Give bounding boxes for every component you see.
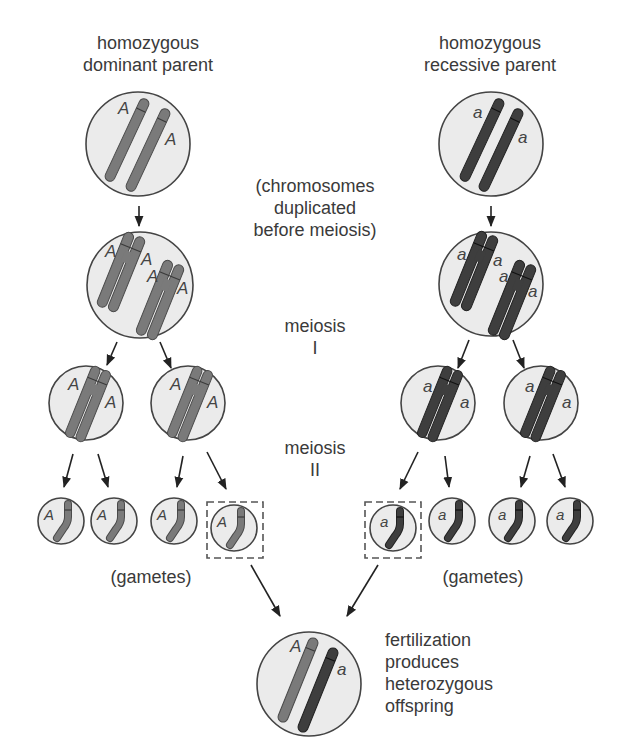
allele-label: a: [556, 506, 564, 523]
allele-label: A: [96, 506, 107, 523]
dup-dominant-cell: A A A A: [87, 231, 193, 341]
allele-label: A: [43, 506, 54, 523]
allele-label: A: [117, 99, 129, 118]
allele-label: A: [104, 242, 116, 261]
arrow: [458, 340, 469, 368]
gamete-recessive-4: a: [547, 498, 593, 544]
allele-label: a: [525, 377, 534, 396]
allele-label: A: [289, 637, 301, 656]
meiosis1-dominant-cell-2: A A: [151, 365, 225, 443]
allele-label: A: [169, 375, 181, 394]
allele-label: a: [498, 506, 506, 523]
allele-label: a: [337, 660, 346, 679]
arrow: [553, 454, 565, 487]
allele-label: A: [206, 393, 218, 412]
allele-label: A: [216, 513, 227, 530]
arrow: [513, 340, 524, 368]
gamete-recessive-2: a: [429, 498, 475, 544]
arrow: [64, 454, 73, 487]
gamete-dominant-2: A: [91, 498, 137, 544]
parent-dominant-cell: A A: [86, 92, 190, 196]
arrow: [251, 565, 280, 616]
allele-label: A: [176, 279, 188, 298]
arrow: [400, 452, 418, 489]
allele-label: a: [423, 377, 432, 396]
meiosis1-dominant-cell-1: A A: [49, 365, 123, 443]
gamete-dominant-3: A: [151, 498, 197, 544]
arrow: [98, 454, 108, 487]
arrow: [177, 456, 183, 487]
allele-label: a: [438, 506, 446, 523]
arrow: [207, 452, 226, 489]
offspring-cell: A a: [257, 632, 361, 736]
allele-label: A: [67, 375, 79, 394]
gamete-recessive-3: a: [489, 498, 535, 544]
allele-label: a: [562, 393, 571, 412]
arrow: [445, 456, 449, 487]
allele-label: a: [457, 245, 466, 264]
allele-label: A: [156, 506, 167, 523]
gamete-dominant-1: A: [38, 498, 84, 544]
allele-label: a: [380, 513, 388, 530]
arrow: [107, 342, 117, 365]
allele-label: a: [518, 128, 527, 147]
arrow: [160, 342, 171, 368]
allele-label: a: [528, 282, 537, 301]
meiosis1-recessive-cell-2: a a: [504, 365, 578, 443]
arrow: [347, 565, 378, 616]
gamete-dominant-4-selected: A: [207, 502, 263, 558]
allele-label: a: [460, 393, 469, 412]
meiosis-diagram: A A A A A A A A A A A A A: [0, 0, 624, 754]
parent-recessive-cell: a a: [439, 92, 543, 196]
allele-label: a: [499, 267, 508, 286]
gamete-recessive-1-selected: a: [365, 502, 421, 558]
allele-label: A: [104, 393, 116, 412]
meiosis1-recessive-cell-1: a a: [401, 365, 475, 443]
allele-label: a: [473, 103, 482, 122]
dup-recessive-cell: a a a a: [439, 230, 543, 341]
allele-label: A: [164, 130, 176, 149]
arrow: [521, 456, 530, 487]
allele-label: A: [146, 267, 158, 286]
